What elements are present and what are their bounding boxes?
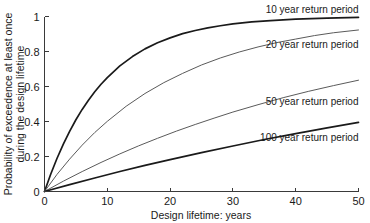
series-labels-group: 10 year return period20 year return peri… (260, 4, 358, 144)
chart-canvas: 0102030405000.20.40.60.81 10 year return… (0, 0, 370, 223)
y-tick-label: 0.4 (24, 116, 39, 128)
x-tick-label: 0 (41, 195, 47, 207)
y-tick-label: 0.8 (24, 46, 39, 58)
y-axis-title-line1: Probability of exceedence at least once (2, 12, 14, 195)
y-tick-label: 0.6 (24, 81, 39, 93)
series-label-10-year: 10 year return period (266, 4, 359, 15)
x-tick-label: 20 (164, 195, 176, 207)
chart-figure: 0102030405000.20.40.60.81 10 year return… (0, 0, 370, 223)
series-label-20-year: 20 year return period (266, 39, 359, 50)
series-label-50-year: 50 year return period (266, 96, 359, 107)
y-tick-label: 0 (33, 186, 39, 198)
y-tick-label: 1 (33, 11, 39, 23)
x-axis-title: Design lifetime: years (151, 209, 251, 221)
x-tick-label: 30 (227, 195, 239, 207)
series-label-100-year: 100 year return period (260, 132, 358, 143)
x-tick-label: 10 (101, 195, 113, 207)
y-tick-label: 0.2 (24, 151, 39, 163)
y-axis-title-line2: during the design lifetime (14, 45, 26, 162)
x-tick-label: 40 (290, 195, 302, 207)
x-tick-label: 50 (352, 195, 364, 207)
